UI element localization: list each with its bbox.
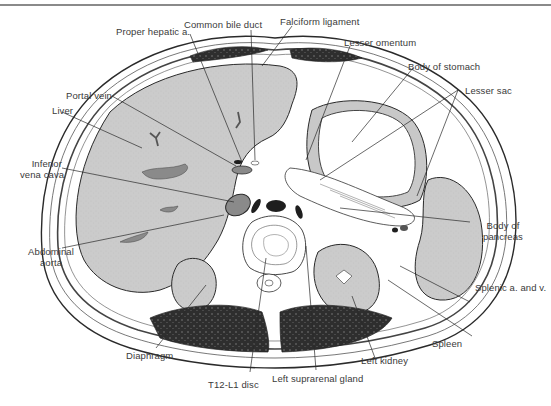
label-left-suprarenal-gland: Left suprarenal gland xyxy=(272,373,363,384)
abdominal-aorta xyxy=(266,200,286,212)
label-body-of-pancreas: Body of pancreas xyxy=(477,220,529,242)
label-inferior-vena-cava-line1: Inferior xyxy=(20,158,62,169)
label-proper-hepatic-artery: Proper hepatic a. xyxy=(116,26,190,37)
label-falciform-ligament: Falciform ligament xyxy=(280,16,359,27)
label-abdominal-aorta-line1: Abdominal xyxy=(26,246,76,257)
label-inferior-vena-cava: Inferior vena cava xyxy=(20,158,62,180)
label-spleen: Spleen xyxy=(432,338,462,349)
label-portal-vein: Portal vein xyxy=(66,90,112,101)
label-body-of-stomach: Body of stomach xyxy=(408,61,480,72)
label-liver: Liver xyxy=(52,105,73,116)
splenic-artery xyxy=(392,228,398,233)
proper-hepatic-artery xyxy=(234,160,242,164)
label-t12-l1-disc: T12-L1 disc xyxy=(208,379,259,390)
label-inferior-vena-cava-line2: vena cava xyxy=(20,169,62,180)
label-lesser-omentum: Lesser omentum xyxy=(344,37,416,48)
label-left-kidney: Left kidney xyxy=(361,355,408,366)
label-abdominal-aorta-line2: aorta xyxy=(26,257,76,268)
label-splenic-artery-and-vein: Splenic a. and v. xyxy=(475,282,546,293)
label-body-of-pancreas-line1: Body of xyxy=(477,220,529,231)
label-diaphragm: Diaphragm xyxy=(126,350,173,361)
portal-vein xyxy=(232,166,252,174)
common-bile-duct xyxy=(251,161,259,165)
label-body-of-pancreas-line2: pancreas xyxy=(477,231,529,242)
label-lesser-sac: Lesser sac xyxy=(465,85,512,96)
label-common-bile-duct: Common bile duct xyxy=(184,19,262,30)
splenic-vein xyxy=(400,225,408,231)
right-kidney xyxy=(172,258,217,310)
label-abdominal-aorta: Abdominal aorta xyxy=(26,246,76,268)
